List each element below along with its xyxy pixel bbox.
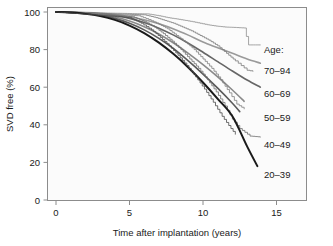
x-tick-label-5: 5 (127, 207, 132, 218)
y-tick-label-60: 60 (29, 82, 40, 93)
y-tick-label-0: 0 (35, 195, 40, 206)
survival-chart-figure: 100 80 60 40 20 0 SVD free (%) 0 5 10 15… (0, 0, 333, 246)
y-tick-label-80: 80 (29, 44, 40, 55)
y-tick-label-40: 40 (29, 119, 40, 130)
legend-title: Age: (264, 44, 284, 55)
chart-svg: 100 80 60 40 20 0 SVD free (%) 0 5 10 15… (0, 0, 333, 246)
legend-item-70-94: 70–94 (264, 65, 290, 76)
y-tick-label-20: 20 (29, 157, 40, 168)
y-axis-title: SVD free (%) (4, 76, 15, 132)
legend-item-40-49: 40–49 (264, 139, 290, 150)
x-tick-label-10: 10 (198, 207, 209, 218)
x-axis-title: Time after implantation (years) (113, 227, 241, 238)
legend-item-50-59: 50–59 (264, 112, 290, 123)
legend-item-60-69: 60–69 (264, 88, 290, 99)
y-tick-label-100: 100 (24, 7, 40, 18)
x-tick-label-0: 0 (53, 207, 58, 218)
legend-item-20-39: 20–39 (264, 169, 290, 180)
x-tick-label-15: 15 (271, 207, 282, 218)
